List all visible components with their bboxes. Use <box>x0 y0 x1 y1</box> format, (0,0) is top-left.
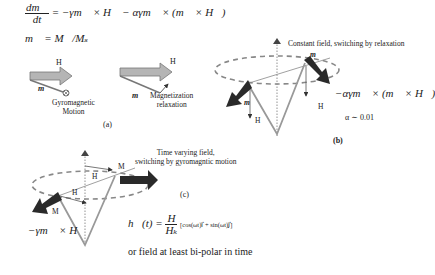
moment-label: m <box>132 91 138 100</box>
field-arrow-a-right <box>120 63 172 81</box>
field-label-mid: H <box>72 188 77 197</box>
precession-torque-label: −γm⃗ × H⃗ <box>28 224 86 236</box>
bipolar-note: or field at least bi-polar in time <box>128 246 252 257</box>
moment-label-left: m <box>244 98 250 107</box>
field-equation: h⃗(t) = HHₖ [cos(ωt)i⃗ + sin(ωt)j⃗] <box>128 213 232 236</box>
field-label-right: H <box>318 102 323 111</box>
panel-b-title: Constant field, switching by relaxation <box>288 39 404 48</box>
moment-label: m <box>38 84 44 93</box>
relaxation-torque-label: −αγm⃗ × (m⃗ × H⃗) <box>335 87 435 99</box>
caption-gyromagnetic: Gyromagnetic Motion <box>52 98 95 116</box>
torque-arrow-b-right <box>304 56 330 84</box>
damping-label: α ∼ 0.01 <box>345 113 374 122</box>
field-label-top: H <box>92 172 97 181</box>
panel-label-b: (b) <box>333 136 343 145</box>
llg-equation: dm⃗dt = −γm⃗ × H⃗ − αγm⃗ × (m⃗ × H⃗) <box>25 2 225 25</box>
torque-arrow-c-right <box>120 170 158 190</box>
field-label-left: H <box>255 116 260 125</box>
field-label: H <box>56 58 62 67</box>
precession-ellipse-c <box>32 171 148 199</box>
moment-line-a-left <box>30 80 63 92</box>
panel-label-a: (a) <box>103 120 112 129</box>
moment-label-top: M <box>118 162 125 171</box>
moment-label-top: m <box>310 50 316 59</box>
llg-lhs-den: dt <box>25 14 49 25</box>
panel-label-c: (c) <box>180 190 189 199</box>
llg-rhs: = −γm⃗ × H⃗ − αγm⃗ × (m⃗ × H⃗) <box>52 6 226 18</box>
caption-relaxation: Magnetization relaxation <box>150 91 193 109</box>
moment-label-left: M <box>52 207 59 216</box>
field-label: H <box>170 57 176 66</box>
panel-c-title: Time varying field, switching by gyromag… <box>135 148 236 166</box>
normalization-equation: m⃗ = M⃗/Mₛ <box>25 32 88 45</box>
